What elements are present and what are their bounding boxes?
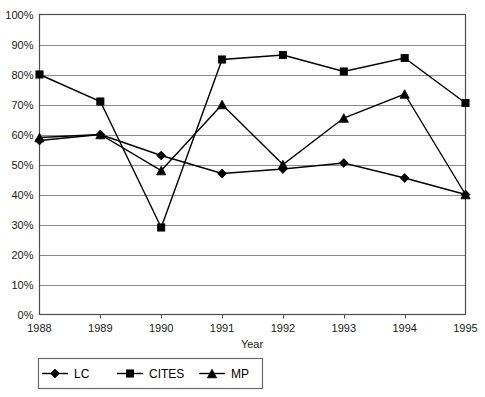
y-axis-tick-label: 30% (11, 219, 33, 231)
data-point-marker (401, 54, 408, 61)
chart-legend: LCCITESMP (39, 359, 263, 389)
chart-container: 0%10%20%30%40%50%60%70%80%90%100% 198819… (0, 0, 485, 397)
legend-label: CITES (149, 367, 184, 381)
y-axis-tick-label: 60% (11, 129, 33, 141)
y-axis-tick-label: 50% (11, 159, 33, 171)
y-axis-tick-label: 90% (11, 39, 33, 51)
x-axis-tick-label: 1993 (332, 322, 356, 334)
line-chart: 0%10%20%30%40%50%60%70%80%90%100% 198819… (0, 0, 485, 397)
data-point-marker (97, 98, 104, 105)
y-axis-tick-label: 70% (11, 99, 33, 111)
data-point-marker (36, 71, 43, 78)
y-axis-tick-label: 40% (11, 189, 33, 201)
y-axis-tick-label: 20% (11, 249, 33, 261)
x-axis-tick-label: 1990 (149, 322, 173, 334)
x-axis-title: Year (241, 338, 264, 350)
data-point-marker (158, 224, 165, 231)
data-point-marker (126, 370, 133, 377)
x-axis-tick-label: 1994 (392, 322, 416, 334)
y-axis-tick-label: 100% (5, 9, 33, 21)
legend-label: LC (74, 367, 90, 381)
x-axis-tick-label: 1995 (453, 322, 477, 334)
x-axis-tick-label: 1991 (210, 322, 234, 334)
y-axis-tick-label: 0% (18, 309, 34, 321)
data-point-marker (340, 68, 347, 75)
data-point-marker (218, 56, 225, 63)
data-point-marker (279, 51, 286, 58)
legend-label: MP (231, 367, 249, 381)
x-axis-tick-label: 1989 (88, 322, 112, 334)
y-axis-tick-label: 80% (11, 69, 33, 81)
data-point-marker (462, 99, 469, 106)
x-axis-tick-label: 1988 (27, 322, 51, 334)
y-axis-tick-label: 10% (11, 279, 33, 291)
x-axis-tick-label: 1992 (271, 322, 295, 334)
